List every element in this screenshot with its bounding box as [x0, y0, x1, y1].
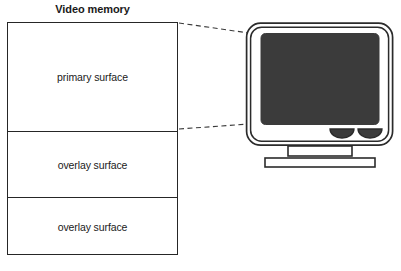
video-memory-region-overlay-surface-2: overlay surface: [8, 197, 177, 256]
monitor-screen: [261, 34, 379, 125]
monitor-base: [265, 158, 375, 167]
region-label-primary-surface: primary surface: [57, 71, 128, 83]
video-memory-region-overlay-surface-1: overlay surface: [8, 131, 177, 197]
crt-monitor: [244, 20, 396, 172]
page-title: Video memory: [7, 3, 178, 15]
monitor-stand: [288, 146, 352, 156]
region-label-overlay-surface-1: overlay surface: [58, 159, 128, 171]
video-memory-block: primary surface overlay surface overlay …: [7, 22, 178, 255]
region-label-overlay-surface-2: overlay surface: [58, 221, 128, 233]
video-memory-diagram: Video memory primary surface overlay sur…: [0, 0, 401, 271]
video-memory-region-primary-surface: primary surface: [8, 23, 177, 131]
